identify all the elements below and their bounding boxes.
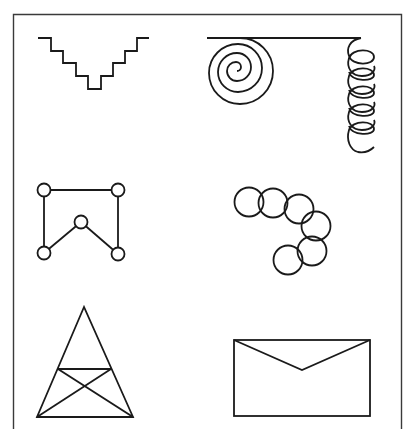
triangle-crossed-shape <box>37 307 133 417</box>
node-bottom-right <box>112 248 125 261</box>
envelope-shape <box>234 340 370 416</box>
chained-circles-shape <box>235 188 331 275</box>
node-top-left <box>38 184 51 197</box>
frame <box>14 15 402 429</box>
node-middle <box>75 216 88 229</box>
node-graph-shape <box>38 184 125 261</box>
node-top-right <box>112 184 125 197</box>
figure-canvas <box>0 0 408 429</box>
staircase-shape <box>38 38 149 89</box>
node-bottom-left <box>38 247 51 260</box>
spiral-and-coil-shape <box>207 38 375 152</box>
